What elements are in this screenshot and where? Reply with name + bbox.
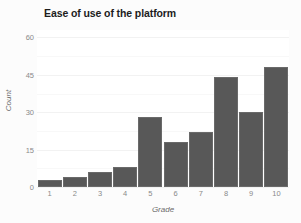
x-tick-label: 4 — [123, 189, 127, 198]
x-tick-label: 1 — [48, 189, 52, 198]
bar — [164, 142, 188, 187]
plot-panel — [37, 30, 289, 187]
x-tick-label: 10 — [272, 189, 280, 198]
bar — [189, 132, 213, 187]
y-tick-label: 60 — [12, 33, 34, 42]
bars-layer — [37, 30, 289, 187]
x-tick-label: 9 — [249, 189, 253, 198]
bar — [38, 180, 62, 187]
x-axis-title: Grade — [37, 205, 289, 214]
x-tick-label: 5 — [148, 189, 152, 198]
bar — [63, 177, 87, 187]
bar — [113, 167, 137, 187]
x-tick-label: 3 — [98, 189, 102, 198]
y-tick-label: 45 — [12, 70, 34, 79]
y-axis-tick-labels: 015304560 — [8, 30, 34, 187]
bar — [264, 67, 288, 187]
bar — [214, 77, 238, 187]
y-tick-label: 30 — [12, 108, 34, 117]
x-axis-tick-labels: 12345678910 — [37, 189, 289, 203]
x-tick-label: 6 — [174, 189, 178, 198]
y-tick-label: 15 — [12, 145, 34, 154]
y-tick-label: 0 — [12, 183, 34, 192]
bar — [239, 112, 263, 187]
chart-title: Ease of use of the platform — [44, 7, 176, 19]
x-tick-label: 7 — [199, 189, 203, 198]
x-tick-label: 8 — [224, 189, 228, 198]
x-tick-label: 2 — [73, 189, 77, 198]
gridline-major — [37, 187, 289, 188]
bar — [138, 117, 162, 187]
bar-chart: Ease of use of the platform Count 015304… — [0, 0, 301, 223]
bar — [88, 172, 112, 187]
